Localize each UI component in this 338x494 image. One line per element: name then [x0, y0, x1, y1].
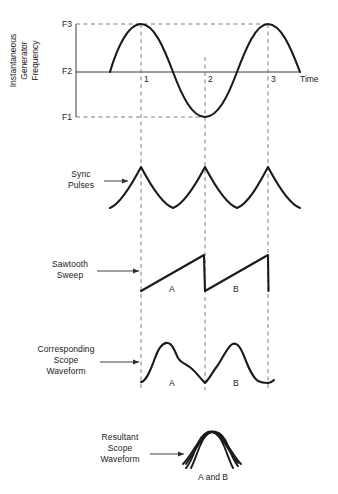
scope-waveform-trace: [141, 343, 274, 383]
time-tick-1: 1: [144, 74, 149, 84]
time-marker-lines: [141, 24, 268, 390]
sweep-mark-b-sawtooth: B: [233, 284, 239, 294]
leader-sawtooth-sweep: [97, 268, 139, 273]
sawtooth-sweep-label: Sawtooth Sweep: [42, 259, 98, 281]
scope-waveform-label: Corresponding Scope Waveform: [32, 344, 100, 378]
freq-tick-f2: F2: [50, 66, 72, 76]
resultant-waveform-label: Resultant Scope Waveform: [90, 432, 150, 466]
y-axis-label: Instantaneous Generator Frequency: [8, 15, 41, 107]
sweep-mark-a-scope: A: [169, 378, 175, 388]
freq-tick-f3: F3: [50, 19, 72, 29]
time-tick-2: 2: [208, 74, 213, 84]
freq-tick-f1: F1: [50, 112, 72, 122]
sync-pulses-label: Sync Pulses: [58, 169, 104, 191]
resultant-waveform-trace: [183, 431, 241, 468]
time-tick-3: 3: [271, 74, 276, 84]
leader-scope-waveform: [100, 359, 139, 364]
leader-resultant-waveform: [150, 451, 184, 456]
leader-sync-pulses: [104, 178, 128, 183]
sweep-mark-a-and-b: A and B: [186, 472, 240, 482]
figure-canvas: Instantaneous Generator Frequency F3 F2 …: [0, 0, 338, 494]
sweep-mark-b-scope: B: [233, 378, 239, 388]
sawtooth-sweep-trace: [141, 255, 269, 291]
sweep-mark-a-sawtooth: A: [169, 284, 175, 294]
time-axis-label: Time: [300, 74, 319, 84]
